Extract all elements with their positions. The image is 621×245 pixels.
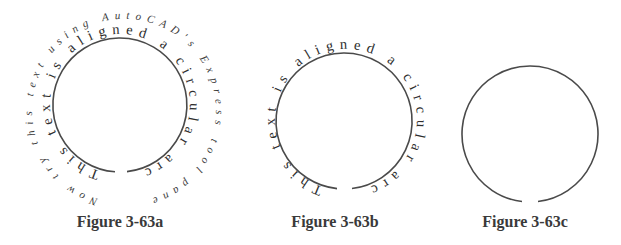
caption-figure-b: Figure 3-63b: [291, 213, 378, 231]
arc-line-b: [276, 53, 412, 189]
figures-canvas: This text is aligned a circular arc! Now…: [0, 0, 621, 245]
caption-figure-a: Figure 3-63a: [77, 213, 163, 231]
caption-figure-c: Figure 3-63c: [482, 213, 567, 231]
arc-line-c: [462, 66, 598, 202]
figure-a: This text is aligned a circular arc! Now…: [0, 0, 226, 209]
figure-c: [462, 66, 598, 202]
arc-line-a: [53, 38, 187, 172]
